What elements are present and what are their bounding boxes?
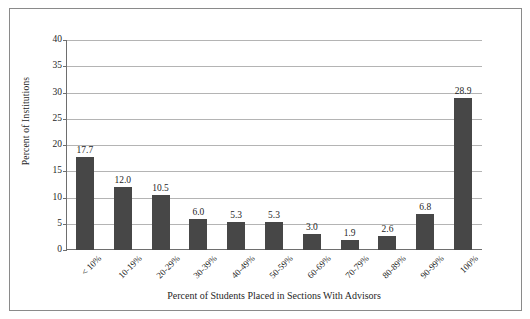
chart-figure: Percent of Institutions 0510152025303540… [0,0,530,319]
x-axis-tick-label: 60-69% [306,254,333,281]
bar-value-label: 5.3 [268,210,280,220]
x-axis-tick-label: 30-39% [192,254,219,281]
x-axis-tick-label: 50-59% [268,254,295,281]
bar[interactable] [378,236,396,250]
x-axis-tick-label: 20-29% [155,254,182,281]
y-axis-tick-label: 20 [36,140,62,150]
bar[interactable] [303,234,321,250]
bar-series: 17.712.010.56.05.35.33.01.92.66.828.9 [66,40,482,250]
y-axis-tick-label: 10 [36,193,62,203]
bar-item[interactable]: 5.3 [217,40,255,250]
bar-value-label: 12.0 [114,175,131,185]
x-axis-tick-label: 100% [459,254,480,275]
bar[interactable] [76,157,94,250]
y-axis-tick-labels: 0510152025303540 [30,40,62,250]
bar[interactable] [454,98,472,250]
bar[interactable] [189,219,207,251]
bar-item[interactable]: 12.0 [104,40,142,250]
bar-value-label: 28.9 [455,86,472,96]
bar-value-label: 3.0 [306,222,318,232]
y-axis-tick-label: 15 [36,166,62,176]
y-axis-tick-label: 30 [36,88,62,98]
bar-value-label: 2.6 [382,224,394,234]
x-axis-tick-label: < 10% [80,254,103,277]
bar[interactable] [114,187,132,250]
y-axis-tick-label: 35 [36,61,62,71]
bar-value-label: 6.8 [419,202,431,212]
bar-item[interactable]: 1.9 [331,40,369,250]
bar-item[interactable]: 6.0 [179,40,217,250]
bar-item[interactable]: 28.9 [444,40,482,250]
bar-item[interactable]: 5.3 [255,40,293,250]
bar[interactable] [152,195,170,250]
y-axis-tick-label: 25 [36,114,62,124]
bar-value-label: 17.7 [77,145,94,155]
bar[interactable] [265,222,283,250]
y-axis-tick-label: 5 [36,219,62,229]
bar-item[interactable]: 6.8 [406,40,444,250]
bar-value-label: 6.0 [192,207,204,217]
x-axis-tick-label: 70-79% [344,254,371,281]
x-axis-tick-label: 90-99% [419,254,446,281]
bar[interactable] [341,240,359,250]
bar-item[interactable]: 17.7 [66,40,104,250]
x-axis-tick-label: 10-19% [117,254,144,281]
bar[interactable] [416,214,434,250]
bar-item[interactable]: 3.0 [293,40,331,250]
x-axis-title: Percent of Students Placed in Sections W… [66,290,482,301]
bar-value-label: 1.9 [344,228,356,238]
bar[interactable] [227,222,245,250]
y-axis-tick-label: 0 [36,245,62,255]
x-axis-tick-label: 80-89% [382,254,409,281]
bar-value-label: 10.5 [152,183,169,193]
bar-value-label: 5.3 [230,210,242,220]
x-axis-tick-label: 40-49% [230,254,257,281]
y-axis-tick-label: 40 [36,35,62,45]
bar-item[interactable]: 2.6 [369,40,407,250]
bar-item[interactable]: 10.5 [142,40,180,250]
